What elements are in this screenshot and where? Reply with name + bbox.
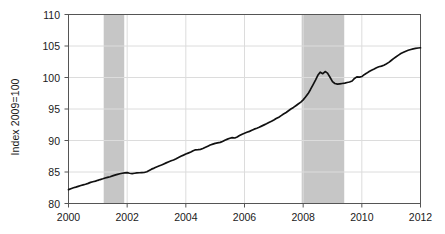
chart-figure: Index 2009=100 80859095100105110 2000200…	[0, 0, 445, 234]
plot-area	[0, 0, 445, 234]
